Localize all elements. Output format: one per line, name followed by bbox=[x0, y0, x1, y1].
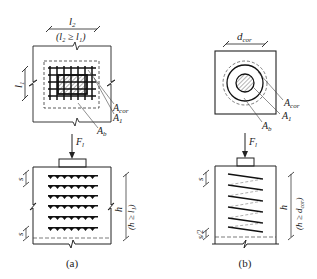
label-a-cor-b: Acor bbox=[283, 97, 300, 110]
caption-b: (b) bbox=[239, 257, 252, 270]
label-l1: l1 bbox=[12, 81, 26, 88]
label-height-condition: (h ≥ l₁) bbox=[126, 204, 136, 230]
label-l2-condition: (l₂ ≥ l₁) bbox=[56, 31, 86, 43]
figure-a-elevation: Fl bbox=[15, 134, 136, 270]
figure-b-elevation: Fl s s/2 h (h ≥ dcor) bbox=[195, 133, 305, 270]
label-spacing-bottom-b: s/2 bbox=[196, 230, 205, 239]
label-ab: Ab bbox=[96, 125, 107, 138]
figure-b-plan: dcor Acor A1 Ab bbox=[215, 30, 300, 133]
label-height-condition-b: (h ≥ dcor) bbox=[294, 198, 305, 230]
local-compression-reinforcement-diagram: l2 (l₂ ≥ l₁) l1 bbox=[0, 0, 317, 279]
bearing-plate bbox=[59, 159, 86, 167]
column-body-b bbox=[212, 166, 279, 248]
label-spacing-bottom: s bbox=[15, 232, 25, 236]
label-spacing-top: s bbox=[15, 177, 25, 181]
label-ab-b: Ab bbox=[261, 120, 272, 133]
label-dcor: dcor bbox=[237, 30, 252, 44]
bearing-area-ab-circle bbox=[236, 74, 254, 92]
bearing-plate-b bbox=[237, 158, 254, 166]
label-height: h bbox=[113, 207, 124, 212]
label-force-b: Fl bbox=[248, 136, 257, 149]
mesh-layers bbox=[48, 175, 98, 231]
dim-l2: l2 (l₂ ≥ l₁) bbox=[46, 15, 100, 43]
label-height-b: h bbox=[278, 205, 289, 210]
label-a1-b: A1 bbox=[281, 110, 292, 123]
force-arrow-icon-b bbox=[242, 151, 248, 158]
caption-a: (a) bbox=[66, 257, 79, 270]
label-l2: l2 bbox=[69, 15, 76, 29]
force-arrow-icon bbox=[69, 152, 75, 159]
dim-l1: l1 bbox=[12, 66, 28, 101]
bearing-area-ab bbox=[58, 75, 87, 94]
label-force: Fl bbox=[75, 136, 84, 149]
dim-dcor: dcor bbox=[223, 30, 268, 47]
label-spacing-top-b: s bbox=[195, 177, 205, 181]
figure-a-plan: l2 (l₂ ≥ l₁) l1 bbox=[12, 15, 129, 138]
